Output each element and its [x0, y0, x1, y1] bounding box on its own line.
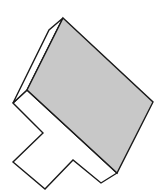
diagram-canvas: [0, 0, 167, 196]
solid-shape-diagram: [0, 0, 167, 196]
